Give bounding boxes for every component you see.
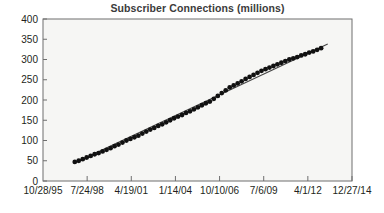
y-axis-tick-label: 350 [21,34,38,45]
x-axis-tick-label: 10/10/06 [200,185,239,196]
y-axis: 050100150200250300350400 [21,14,47,187]
chart-figure: Subscriber Connections (millions) 050100… [0,0,384,213]
y-axis-tick-label: 400 [21,14,38,25]
data-point-marker [239,79,244,84]
data-point-marker [219,91,224,96]
x-axis-tick-label: 4/19/01 [115,185,149,196]
x-axis-tick-label: 4/1/12 [294,185,322,196]
data-point-marker [223,88,228,93]
data-point-marker [207,99,212,104]
x-axis-tick-label: 7/6/09 [250,185,278,196]
y-axis-tick-label: 200 [21,95,38,106]
y-axis-tick-label: 50 [27,155,39,166]
data-point-marker [319,46,324,51]
y-axis-tick-label: 150 [21,115,38,126]
x-axis-tick-label: 12/27/14 [333,185,372,196]
data-point-marker [215,94,220,99]
y-axis-tick-label: 300 [21,54,38,65]
x-axis-tick-label: 10/28/95 [24,185,63,196]
data-point-marker [211,96,216,101]
x-axis-tick-label: 1/14/04 [159,185,193,196]
y-axis-tick-label: 250 [21,74,38,85]
x-axis-tick-label: 7/24/98 [70,185,104,196]
y-axis-tick-label: 100 [21,135,38,146]
chart-plot-area: 050100150200250300350400 10/28/957/24/98… [0,0,384,213]
